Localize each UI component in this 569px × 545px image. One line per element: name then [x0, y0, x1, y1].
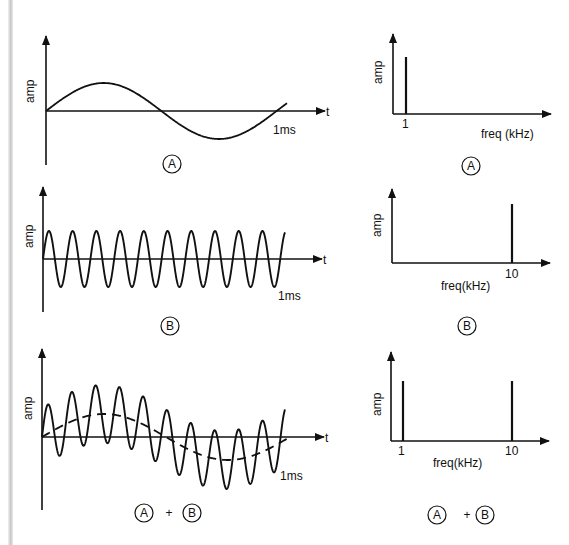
svg-text:A: A — [168, 157, 176, 171]
svg-text:+: + — [463, 508, 470, 522]
freq-label: freq(kHz) — [433, 456, 482, 470]
amp-label: amp — [371, 60, 385, 84]
spectrum-plot-a: amp 1 freq (kHz) A — [371, 34, 551, 175]
panel-label-a: A — [462, 157, 480, 175]
time-label: t — [323, 253, 327, 267]
svg-text:B: B — [166, 319, 174, 333]
panel-label-b: B — [161, 317, 179, 335]
spectrum-plot-a-plus-b: amp 1 10 freq(kHz) A + B — [370, 352, 549, 524]
time-label: t — [326, 105, 330, 119]
time-plot-a-plus-b: amp t 1ms A + B — [21, 349, 329, 522]
freq-label: freq (kHz) — [481, 127, 534, 141]
time-plot-a: amp t 1ms A — [23, 36, 330, 173]
amp-label: amp — [22, 224, 36, 248]
svg-text:B: B — [481, 508, 489, 522]
svg-text:A: A — [433, 508, 441, 522]
panel-label-a-plus-b: A + B — [428, 506, 494, 524]
signal-spectrum-figure: amp t 1ms A amp 1 freq (kHz) A amp t 1ms… — [0, 0, 569, 545]
time-tick-label: 1ms — [278, 289, 301, 303]
panel-label-a: A — [163, 155, 181, 173]
freq-tick-10: 10 — [505, 267, 519, 281]
svg-text:B: B — [188, 506, 196, 520]
panel-label-b: B — [458, 317, 476, 335]
freq-tick-10: 10 — [505, 444, 519, 458]
panel-label-a-plus-b: A + B — [135, 504, 201, 522]
time-label: t — [325, 431, 329, 445]
amp-label: amp — [21, 396, 35, 420]
freq-label: freq(kHz) — [441, 279, 490, 293]
time-tick-label: 1ms — [280, 469, 303, 483]
svg-text:+: + — [165, 506, 172, 520]
time-tick-label: 1ms — [273, 123, 296, 137]
freq-tick-1: 1 — [402, 117, 409, 131]
svg-text:A: A — [140, 506, 148, 520]
svg-text:B: B — [463, 319, 471, 333]
svg-text:A: A — [467, 159, 475, 173]
amp-label: amp — [370, 213, 384, 237]
freq-tick-1: 1 — [398, 444, 405, 458]
amp-label: amp — [23, 79, 37, 103]
spectrum-plot-b: amp 10 freq(kHz) B — [370, 189, 550, 335]
time-plot-b: amp t 1ms B — [22, 187, 327, 335]
amp-label: amp — [370, 392, 384, 416]
